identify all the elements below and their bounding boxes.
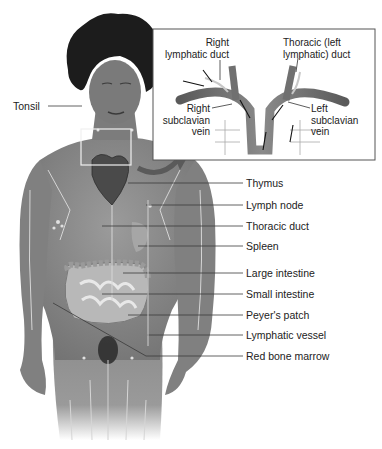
label-lymphatic-vessel: Lymphatic vessel	[246, 329, 326, 341]
label-lymph-node: Lymph node	[246, 199, 303, 211]
label-thoracic-duct: Thoracic duct	[246, 220, 309, 232]
label-small-intestine: Small intestine	[246, 288, 314, 300]
label-thymus: Thymus	[246, 177, 283, 189]
label-large-intestine: Large intestine	[246, 267, 315, 279]
intestines	[65, 262, 148, 323]
label-right-subclavian-vein: Right subclavian vein	[160, 103, 210, 138]
label-thoracic-left-lymphatic-duct: Thoracic (left lymphatic) duct	[283, 37, 350, 60]
label-peyers-patch: Peyer's patch	[246, 309, 309, 321]
label-tonsil: Tonsil	[13, 100, 40, 112]
lymphatic-system-diagram: Tonsil Thymus Lymph node Thoracic duct S…	[0, 0, 382, 449]
anatomy-illustration	[0, 0, 382, 449]
label-red-bone-marrow: Red bone marrow	[246, 350, 329, 362]
label-right-lymphatic-duct: Right lymphatic duct	[163, 37, 229, 60]
label-spleen: Spleen	[246, 240, 279, 252]
label-left-subclavian-vein: Left subclavian vein	[311, 103, 358, 138]
